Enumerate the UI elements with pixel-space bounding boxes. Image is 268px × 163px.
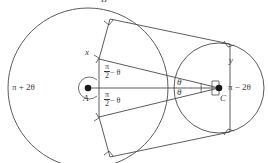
- center-point-c: [216, 85, 223, 92]
- right-angle-mark-bottom-left: [104, 151, 113, 156]
- center-point-a: [85, 85, 92, 92]
- label-left-angle: π + 2θ: [12, 82, 35, 92]
- label-chord-x: x: [85, 47, 89, 57]
- label-point-c: C: [220, 93, 226, 103]
- angle-upper-remainder: − θ: [110, 68, 120, 77]
- right-angle-mark-top-left: [104, 20, 113, 25]
- angle-lower-remainder: − θ: [110, 96, 120, 105]
- geometry-figure: B π + 2θ π − 2θ A C x y π 2 − θ π 2 − θ …: [0, 0, 268, 163]
- label-theta-lower: θ: [177, 87, 181, 97]
- label-chord-y: y: [229, 55, 233, 65]
- tangent-line-top: [110, 19, 230, 44]
- right-angle-mark-chord-upper: [94, 55, 99, 63]
- right-angle-mark-chord-lower: [94, 113, 99, 121]
- label-right-angle: π − 2θ: [228, 82, 251, 92]
- tangent-line-bottom: [110, 132, 230, 157]
- label-angle-upper-a: π 2 − θ: [104, 63, 120, 80]
- label-theta-upper: θ: [177, 77, 181, 87]
- label-top-partial: B: [101, 0, 107, 4]
- label-angle-lower-a: π 2 − θ: [104, 91, 120, 108]
- label-point-a: A: [83, 93, 89, 103]
